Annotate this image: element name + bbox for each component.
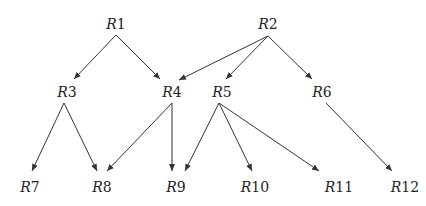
node-r11-num: 11 (335, 179, 353, 195)
edge-r2-r5 (226, 36, 268, 79)
edge-r5-r9 (185, 103, 219, 171)
edge-r5-r11 (219, 103, 319, 171)
node-r4-num: 4 (173, 84, 182, 100)
edge-r6-r12 (326, 103, 392, 171)
node-r12-prefix: R (391, 179, 402, 195)
node-r9-num: 9 (177, 179, 186, 195)
node-r1-prefix: R (106, 16, 117, 32)
directed-graph-diagram: R1 R2 R3 R4 R5 R6 R7 R8 R9 R10 R11 R12 (0, 0, 426, 206)
node-r1: R1 (106, 17, 125, 31)
node-r3-num: 3 (68, 84, 77, 100)
node-r4: R4 (162, 85, 181, 99)
node-r12: R12 (391, 180, 419, 194)
edge-r3-r7 (32, 103, 64, 171)
node-r3: R3 (57, 85, 76, 99)
edge-r4-r8 (107, 103, 172, 171)
node-r2-num: 2 (269, 16, 278, 32)
node-r11: R11 (325, 180, 353, 194)
node-r5: R5 (212, 85, 231, 99)
node-r8: R8 (92, 180, 111, 194)
node-r2-prefix: R (258, 16, 269, 32)
node-r5-prefix: R (212, 84, 223, 100)
node-r10-num: 10 (251, 179, 269, 195)
edge-r2-r6 (268, 36, 312, 79)
node-r1-num: 1 (117, 16, 126, 32)
node-r5-num: 5 (223, 84, 232, 100)
edge-r5-r10 (219, 103, 252, 171)
edge-r1-r3 (74, 35, 116, 79)
edge-r2-r4 (179, 36, 268, 80)
node-r8-num: 8 (103, 179, 112, 195)
edge-r3-r8 (64, 103, 97, 171)
node-r8-prefix: R (92, 179, 103, 195)
node-r9: R9 (166, 180, 185, 194)
node-r10-prefix: R (241, 179, 252, 195)
edges-layer (0, 0, 426, 206)
node-r10: R10 (241, 180, 269, 194)
node-r11-prefix: R (325, 179, 336, 195)
edge-r1-r4 (116, 35, 160, 79)
node-r7-num: 7 (31, 179, 40, 195)
node-r7-prefix: R (20, 179, 31, 195)
node-r6-num: 6 (323, 84, 332, 100)
node-r4-prefix: R (162, 84, 173, 100)
node-r7: R7 (20, 180, 39, 194)
node-r9-prefix: R (166, 179, 177, 195)
node-r12-num: 12 (401, 179, 419, 195)
node-r2: R2 (258, 17, 277, 31)
node-r6-prefix: R (312, 84, 323, 100)
node-r6: R6 (312, 85, 331, 99)
node-r3-prefix: R (57, 84, 68, 100)
